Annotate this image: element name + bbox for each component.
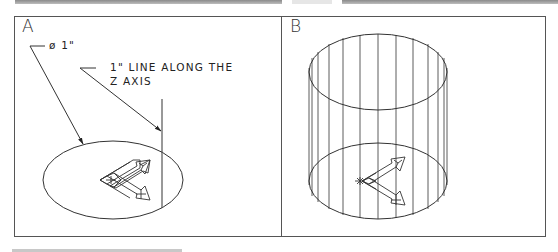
z-axis-annotation-line2: Z AXIS (110, 76, 152, 87)
panel-b-drawing (309, 34, 447, 219)
cad-drawing (0, 0, 558, 252)
diameter-leader (30, 46, 83, 144)
diameter-annotation: ø 1" (49, 40, 75, 51)
panel-a-label: A (22, 18, 34, 35)
ucs-icon (355, 157, 405, 205)
ucs-icon (100, 160, 150, 200)
panel-b-label: B (290, 18, 301, 35)
cylinder-generator-lines (309, 34, 447, 219)
z-axis-annotation-line1: 1" LINE ALONG THE (110, 62, 233, 73)
